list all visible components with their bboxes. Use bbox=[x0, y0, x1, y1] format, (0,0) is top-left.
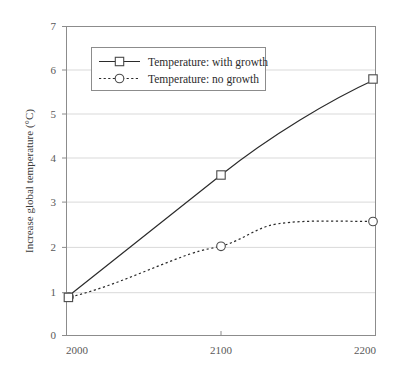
y-tick-label-2: 2 bbox=[51, 241, 57, 253]
chart-figure: 7 6 5 4 3 2 1 0 2000 2100 2200 Increase … bbox=[0, 0, 406, 374]
y-tick-label-7: 7 bbox=[51, 20, 57, 32]
data-point-no-growth-2200 bbox=[369, 217, 378, 226]
data-point-with-growth-2100 bbox=[217, 171, 225, 179]
circle-marker bbox=[115, 74, 124, 83]
x-tick-label-2100: 2100 bbox=[210, 344, 233, 356]
line-chart: 7 6 5 4 3 2 1 0 2000 2100 2200 Increase … bbox=[0, 0, 406, 374]
data-point-with-growth-2000 bbox=[64, 293, 72, 301]
y-tick-label-1: 1 bbox=[51, 286, 57, 298]
y-tick-label-4: 4 bbox=[51, 152, 57, 164]
y-tick-label-0: 0 bbox=[51, 329, 57, 341]
y-tick-label-3: 3 bbox=[51, 196, 57, 208]
data-point-no-growth-2100 bbox=[217, 242, 226, 251]
y-axis-title: Increase global temperature (°C) bbox=[23, 109, 36, 253]
y-tick-label-6: 6 bbox=[51, 64, 57, 76]
x-tick-label-2000: 2000 bbox=[66, 344, 89, 356]
legend-label-with-growth: Temperature: with growth bbox=[148, 56, 268, 69]
legend-label-no-growth: Temperature: no growth bbox=[148, 73, 259, 86]
data-point-with-growth-2200 bbox=[369, 75, 377, 83]
y-axis-ticks bbox=[62, 27, 66, 336]
x-tick-label-2200: 2200 bbox=[354, 344, 377, 356]
y-tick-label-5: 5 bbox=[51, 108, 57, 120]
square-marker bbox=[115, 57, 123, 65]
chart-legend: Temperature: with growth Temperature: no… bbox=[92, 48, 269, 91]
